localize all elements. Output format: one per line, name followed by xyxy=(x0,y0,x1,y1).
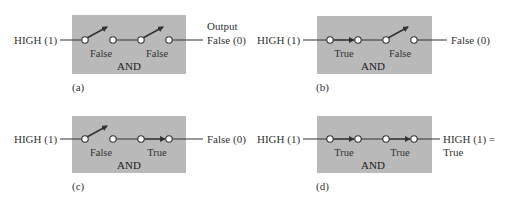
output-header: Output xyxy=(207,20,238,32)
contact-terminal-icon xyxy=(411,37,417,43)
output-label-2: True xyxy=(443,146,463,158)
switch-1-label: True xyxy=(324,147,364,159)
output-label: False (0) xyxy=(207,133,246,145)
and-circuit-c xyxy=(0,100,253,199)
contact-terminal-icon xyxy=(327,136,333,142)
input-label: HIGH (1) xyxy=(257,133,300,145)
switch-1-label: True xyxy=(324,48,364,60)
output-label: False (0) xyxy=(451,34,490,46)
output-label: HIGH (1) = xyxy=(443,133,495,145)
contact-terminal-icon xyxy=(355,136,361,142)
gate-label: AND xyxy=(109,60,149,72)
caption: (a) xyxy=(72,81,84,93)
contact-terminal-icon xyxy=(166,136,172,142)
input-label: HIGH (1) xyxy=(257,34,300,46)
panel-c: HIGH (1) False (0) False True AND (c) xyxy=(0,100,253,199)
contact-terminal-icon xyxy=(110,136,116,142)
contact-terminal-icon xyxy=(166,37,172,43)
switch-1-label: False xyxy=(81,147,121,159)
and-circuit-b xyxy=(245,0,507,99)
contact-terminal-icon xyxy=(355,37,361,43)
switch-1-label: False xyxy=(81,48,121,60)
panel-a: HIGH (1) Output False (0) False False AN… xyxy=(0,0,253,99)
input-label: HIGH (1) xyxy=(14,34,57,46)
and-circuit-d xyxy=(245,100,507,199)
contact-terminal-icon xyxy=(82,136,88,142)
caption: (b) xyxy=(316,81,329,93)
input-label: HIGH (1) xyxy=(14,133,57,145)
contact-terminal-icon xyxy=(327,37,333,43)
switch-2-label: False xyxy=(137,48,177,60)
gate-label: AND xyxy=(353,60,393,72)
contact-terminal-icon xyxy=(138,37,144,43)
panel-d: HIGH (1) HIGH (1) = True True True AND (… xyxy=(245,100,498,199)
switch-2-label: True xyxy=(380,147,420,159)
contact-terminal-icon xyxy=(110,37,116,43)
panel-b: HIGH (1) False (0) True False AND (b) xyxy=(245,0,498,99)
output-label: False (0) xyxy=(207,34,246,46)
caption: (c) xyxy=(72,180,84,192)
gate-label: AND xyxy=(353,159,393,171)
caption: (d) xyxy=(316,180,329,192)
contact-terminal-icon xyxy=(82,37,88,43)
and-circuit-a xyxy=(0,0,253,99)
contact-terminal-icon xyxy=(383,136,389,142)
contact-terminal-icon xyxy=(138,136,144,142)
switch-2-label: False xyxy=(380,48,420,60)
gate-label: AND xyxy=(109,159,149,171)
contact-terminal-icon xyxy=(411,136,417,142)
contact-terminal-icon xyxy=(383,37,389,43)
switch-2-label: True xyxy=(137,147,177,159)
